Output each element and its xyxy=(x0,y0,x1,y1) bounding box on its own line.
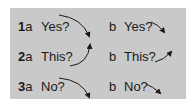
row-2b-rising-arrow-icon xyxy=(155,52,171,62)
row-3a-falling-arrow-icon xyxy=(59,78,89,97)
row-2a-rising-arrow-icon xyxy=(70,45,90,66)
row-3b-falling-arrow-icon xyxy=(146,84,160,93)
row-1b-falling-arrow-icon xyxy=(151,22,164,32)
intonation-arrows xyxy=(0,0,194,106)
row-1a-falling-arrow-icon xyxy=(59,15,89,36)
